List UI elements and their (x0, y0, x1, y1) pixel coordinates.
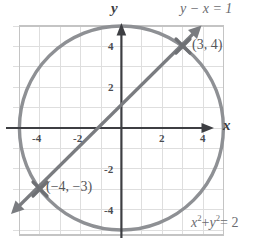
y-tick-2: 2 (108, 82, 114, 93)
circle-eq-rhs: = 2 (220, 215, 238, 230)
x-tick-2: 2 (159, 133, 165, 144)
x-axis-label: x (223, 118, 231, 133)
y-tick-4: 4 (108, 41, 114, 52)
x-tick-minus-2: -2 (73, 133, 82, 144)
y-axis (117, 23, 127, 238)
line-equation-label: y − x = 1 (180, 2, 232, 16)
point-label-lower: (−4, −3) (46, 180, 92, 194)
circle-equation-label: x2+y2= 2 (191, 214, 238, 230)
y-axis-label: y (111, 1, 118, 16)
x-tick-minus-4: -4 (32, 133, 41, 144)
graph-figure: y x 4 2 -2 -4 -4 -2 2 4 y − x = 1 (3, 4)… (0, 0, 277, 243)
point-label-upper: (3, 4) (192, 38, 222, 52)
x-tick-4: 4 (200, 133, 206, 144)
y-tick-minus-4: -4 (104, 205, 113, 216)
coordinate-plane-svg (0, 0, 277, 243)
y-tick-minus-2: -2 (104, 164, 113, 175)
